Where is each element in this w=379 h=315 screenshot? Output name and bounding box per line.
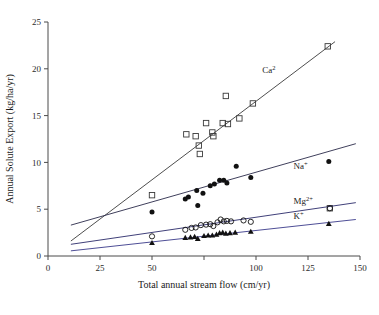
data-point <box>150 210 155 215</box>
y-axis-title: Annual Solute Export (kg/ha/yr) <box>4 74 16 204</box>
data-point <box>203 120 208 125</box>
data-point <box>212 181 217 186</box>
data-point <box>149 234 154 239</box>
y-tick-label: 25 <box>32 17 42 27</box>
data-point <box>193 133 198 138</box>
data-point <box>184 132 189 137</box>
x-tick-label: 50 <box>148 263 158 273</box>
y-tick-label: 10 <box>32 158 42 168</box>
series-K: K+ <box>71 210 356 250</box>
data-point <box>326 221 332 226</box>
scatter-chart-figure: 051015202502550100125150Total annual str… <box>0 0 379 315</box>
x-tick-label: 150 <box>353 263 367 273</box>
data-point <box>326 159 331 164</box>
x-tick-label: 25 <box>96 263 106 273</box>
y-tick-label: 0 <box>37 251 42 261</box>
data-point <box>223 93 228 98</box>
data-point <box>234 164 239 169</box>
data-point <box>248 219 253 224</box>
y-tick-label: 5 <box>37 204 42 214</box>
data-point <box>237 116 242 121</box>
series-label-K: K+ <box>293 210 304 221</box>
y-tick-label: 15 <box>32 111 42 121</box>
data-point <box>248 175 253 180</box>
series-label-Mg2: Mg2+ <box>293 195 313 206</box>
series-label-Ca2: Ca2 <box>262 64 275 75</box>
series-Na: Na+ <box>71 144 356 225</box>
x-tick-label: 100 <box>249 263 263 273</box>
data-point <box>182 235 188 240</box>
y-tick-label: 20 <box>32 64 42 74</box>
x-tick-label: 125 <box>301 263 315 273</box>
x-tick-label: 0 <box>46 263 51 273</box>
data-point <box>194 188 199 193</box>
data-point <box>197 151 202 156</box>
axis-frame <box>48 22 360 256</box>
data-point <box>200 191 205 196</box>
x-axis-title: Total annual stream flow (cm/yr) <box>138 279 270 291</box>
plot-canvas: 051015202502550100125150Total annual str… <box>0 0 379 315</box>
data-point <box>149 192 154 197</box>
data-point <box>224 180 229 185</box>
data-point <box>186 195 191 200</box>
series-label-Na: Na+ <box>293 160 308 171</box>
data-point <box>195 203 200 208</box>
